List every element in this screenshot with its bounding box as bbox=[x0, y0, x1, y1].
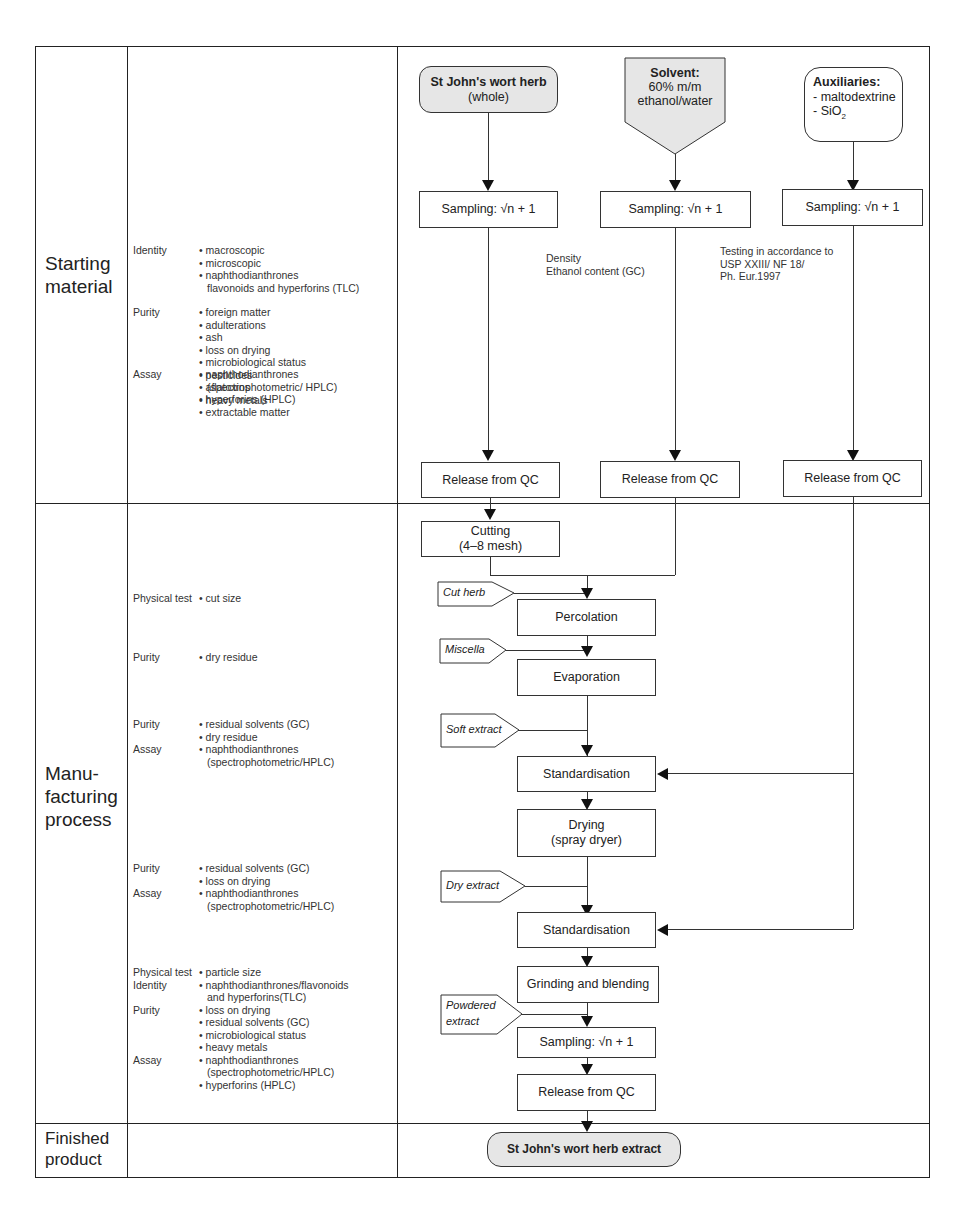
arrow-down-icon bbox=[581, 588, 593, 599]
manufacturing-tests-powdered-extract: Physical test • particle size Identity •… bbox=[133, 966, 393, 1116]
manufacturing-tests-percolation: Purity • dry residue bbox=[133, 651, 393, 665]
standardisation-step-1: Standardisation bbox=[517, 756, 656, 792]
connector bbox=[518, 730, 587, 731]
sampling-box-powdered: Sampling: √n + 1 bbox=[517, 1027, 656, 1058]
arrow-down-icon bbox=[581, 1121, 593, 1132]
release-qc-auxiliaries: Release from QC bbox=[783, 460, 922, 497]
dry-extract-tag: Dry extract bbox=[440, 870, 510, 902]
connector bbox=[587, 575, 588, 589]
auxiliaries-source-node: Auxiliaries: - maltodextrine - SiO2 bbox=[804, 67, 903, 142]
arrow-left-icon bbox=[657, 768, 668, 780]
test-category-purity: Purity bbox=[133, 306, 160, 319]
miscella-tag: Miscella bbox=[439, 638, 494, 662]
connector bbox=[488, 113, 489, 181]
connector bbox=[521, 1014, 587, 1015]
table-bottom-border bbox=[35, 1177, 929, 1178]
sampling-box-solvent: Sampling: √n + 1 bbox=[600, 191, 751, 228]
section-label-finished-product: Finished product bbox=[45, 1128, 109, 1170]
manufacturing-tests-soft-extract: Purity • residual solvents (GC) • dry re… bbox=[133, 718, 393, 778]
connector bbox=[490, 557, 491, 575]
connector bbox=[853, 142, 854, 181]
standardisation-step-2: Standardisation bbox=[517, 912, 656, 948]
connector bbox=[587, 636, 588, 646]
connector bbox=[514, 593, 587, 594]
release-qc-solvent: Release from QC bbox=[600, 461, 740, 498]
auxiliaries-tests-note: Testing in accordance to USP XXIII/ NF 1… bbox=[720, 245, 833, 283]
table-right-border bbox=[929, 46, 930, 1178]
connector bbox=[675, 498, 676, 575]
section-divider-starting-manufacturing bbox=[35, 503, 929, 504]
assay-test-list: • naphthodianthrones (spectrophotometric… bbox=[199, 368, 337, 418]
release-qc-herb: Release from QC bbox=[421, 462, 560, 498]
arrow-down-icon bbox=[581, 745, 593, 756]
connector bbox=[506, 650, 587, 651]
section-label-starting-material: Starting material bbox=[45, 252, 113, 298]
arrow-down-icon bbox=[669, 450, 681, 461]
final-product-node: St John's wort herb extract bbox=[487, 1132, 681, 1167]
manufacturing-tests-dry-extract: Purity • residual solvents (GC) • loss o… bbox=[133, 862, 393, 922]
test-category-assay: Assay bbox=[133, 368, 162, 381]
connector bbox=[525, 886, 587, 887]
connector bbox=[490, 575, 675, 576]
herb-source-node: St John's wort herb (whole) bbox=[419, 66, 558, 113]
powdered-extract-tag: Powdered extract bbox=[440, 994, 510, 1034]
cutting-step: Cutting (4–8 mesh) bbox=[421, 521, 560, 557]
arrow-down-icon bbox=[581, 646, 593, 657]
test-category-identity: Identity bbox=[133, 244, 167, 257]
grinding-blending-step: Grinding and blending bbox=[517, 966, 659, 1003]
arrow-down-icon bbox=[581, 1016, 593, 1027]
sampling-box-auxiliaries: Sampling: √n + 1 bbox=[782, 189, 923, 226]
connector bbox=[675, 154, 676, 181]
auxiliaries-feed-line bbox=[667, 773, 853, 774]
table-left-border bbox=[35, 46, 36, 1178]
percolation-step: Percolation bbox=[517, 599, 656, 636]
arrow-left-icon bbox=[657, 924, 668, 936]
arrow-down-icon bbox=[669, 180, 681, 191]
evaporation-step: Evaporation bbox=[517, 659, 656, 696]
arrow-down-icon bbox=[484, 509, 496, 520]
connector bbox=[675, 228, 676, 451]
connector bbox=[587, 857, 588, 910]
release-qc-final: Release from QC bbox=[517, 1074, 656, 1111]
cut-herb-tag: Cut herb bbox=[437, 581, 497, 605]
solvent-source-node: Solvent: 60% m/m ethanol/water bbox=[624, 66, 726, 108]
section-label-manufacturing-process: Manu- facturing process bbox=[45, 762, 118, 831]
connector bbox=[853, 226, 854, 451]
soft-extract-tag: Soft extract bbox=[440, 713, 510, 747]
connector bbox=[488, 228, 489, 451]
column-divider-2 bbox=[397, 46, 398, 1178]
drying-step: Drying (spray dryer) bbox=[517, 809, 656, 857]
identity-test-list: • macroscopic • microscopic • naphthodia… bbox=[199, 244, 359, 294]
starting-tests: Identity • macroscopic • microscopic • n… bbox=[133, 244, 393, 494]
auxiliaries-feed-line bbox=[853, 497, 854, 929]
arrow-down-icon bbox=[482, 450, 494, 461]
column-divider-1 bbox=[127, 46, 128, 1178]
arrow-down-icon bbox=[482, 180, 494, 191]
solvent-tests-note: Density Ethanol content (GC) bbox=[546, 252, 645, 277]
table-top-border bbox=[35, 46, 929, 47]
auxiliaries-feed-line bbox=[667, 929, 853, 930]
manufacturing-tests-cut: Physical test • cut size bbox=[133, 592, 393, 606]
section-divider-manufacturing-finished bbox=[35, 1123, 929, 1124]
sampling-box-herb: Sampling: √n + 1 bbox=[419, 191, 558, 228]
